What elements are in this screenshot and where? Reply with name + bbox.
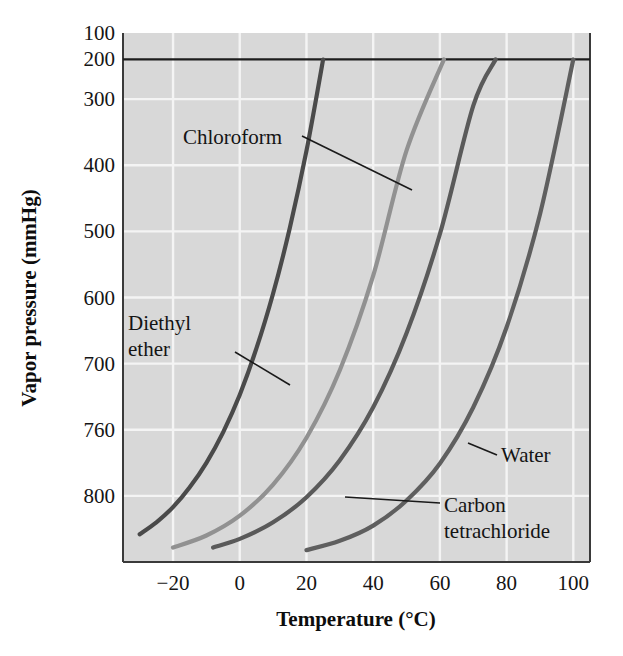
x-tick-label: 40: [363, 571, 384, 595]
y-tick-label: 600: [84, 286, 116, 310]
y-axis-tick-labels: 800760700600500400300200100: [84, 21, 116, 508]
y-tick-label: 800: [84, 484, 116, 508]
y-tick-label: 100: [84, 21, 116, 45]
label-diethyl-ether-line1: Diethyl: [128, 311, 191, 335]
y-tick-label: 760: [84, 418, 116, 442]
chart-canvas: 800760700600500400300200100 −20020406080…: [0, 0, 623, 656]
label-carbon-tetrachloride-line2: tetrachloride: [444, 519, 550, 543]
x-tick-label: 60: [429, 571, 450, 595]
x-tick-label: 80: [496, 571, 517, 595]
label-water: Water: [501, 443, 551, 467]
y-axis-title: Vapor pressure (mmHg): [17, 189, 41, 406]
label-chloroform: Chloroform: [183, 125, 282, 149]
x-tick-label: 100: [558, 571, 590, 595]
y-tick-label: 300: [84, 87, 116, 111]
label-carbon-tetrachloride-line1: Carbon: [444, 493, 506, 517]
x-tick-label: 0: [235, 571, 246, 595]
y-tick-label: 200: [84, 47, 116, 71]
y-tick-label: 700: [84, 352, 116, 376]
y-tick-label: 400: [84, 153, 116, 177]
x-axis-tick-labels: −20020406080100: [157, 571, 589, 595]
x-tick-label: 20: [296, 571, 317, 595]
label-diethyl-ether-line2: ether: [128, 337, 170, 361]
x-tick-label: −20: [157, 571, 190, 595]
y-tick-label: 500: [84, 219, 116, 243]
x-axis-title: Temperature (°C): [276, 607, 435, 631]
vapor-pressure-figure: 800760700600500400300200100 −20020406080…: [0, 0, 623, 656]
